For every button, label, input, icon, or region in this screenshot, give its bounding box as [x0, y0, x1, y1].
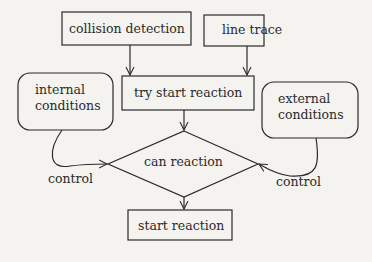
start-reaction-label: start reaction	[138, 218, 224, 233]
collision-detection-label: collision detection	[69, 21, 185, 36]
internal-conditions-label-2: conditions	[35, 98, 101, 113]
try-start-reaction-label: try start reaction	[134, 85, 242, 100]
internal-conditions-label-1: internal	[35, 82, 85, 97]
control-left-label: control	[48, 171, 93, 186]
arrow-internal-control	[52, 130, 107, 167]
control-right-label: control	[276, 174, 321, 189]
flowchart: collision detection line trace try start…	[0, 0, 372, 262]
arrow-external-control	[259, 138, 318, 176]
line-trace-label: line trace	[222, 22, 282, 37]
can-reaction-label: can reaction	[144, 154, 223, 169]
external-conditions-label-2: conditions	[278, 107, 344, 122]
external-conditions-label-1: external	[278, 91, 330, 106]
